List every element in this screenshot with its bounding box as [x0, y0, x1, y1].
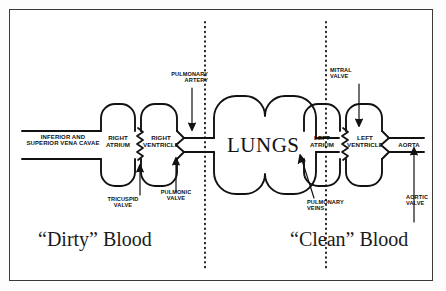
label-dirty-blood: “Dirty” Blood: [38, 228, 152, 251]
tricuspid-valve-arrowhead: [137, 165, 144, 173]
lungs-top-outline: [214, 96, 316, 138]
right-atrium-top-outline: [101, 104, 135, 131]
tricuspid-valve-zigzag: [137, 128, 143, 160]
pulmonic-valve-chevron: [176, 131, 184, 159]
right-atrium-bottom-outline: [101, 159, 135, 186]
aortic-valve-chevron: [381, 131, 389, 159]
pulmonary-artery-arrowhead: [189, 123, 196, 131]
right-ventricle-top-outline: [141, 104, 177, 131]
label-lungs: LUNGS: [227, 133, 300, 158]
right-ventricle-bottom-outline: [141, 159, 177, 186]
left-ventricle-bottom-outline: [346, 159, 382, 186]
left-ventricle-top-outline: [346, 104, 382, 131]
mitral-valve-zigzag: [342, 128, 348, 160]
label-clean-blood: “Clean” Blood: [290, 228, 408, 251]
left-atrium-top-outline: [304, 104, 340, 131]
circulatory-system-diagram: INFERIOR ANDSUPERIOR VENA CAVAE RIGHTATR…: [0, 0, 446, 291]
mitral-valve-arrowhead: [356, 119, 363, 127]
